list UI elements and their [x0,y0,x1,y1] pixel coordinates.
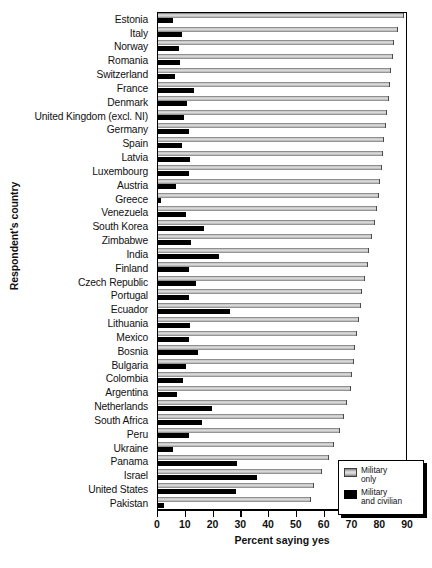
bar-military-and-civilian [158,475,257,480]
bar-row [158,234,406,248]
x-axis-tick [268,511,269,517]
y-axis-tick-label: Italy [130,28,148,39]
bar-row [158,40,406,54]
bar-row [158,151,406,165]
bar-row [158,345,406,359]
bar-military-only [158,469,322,474]
bar-military-only [158,40,394,45]
y-axis-tick-label: Czech Republic [78,277,148,288]
legend: Militaryonly Militaryand civilian [338,460,424,515]
y-axis-tick-label: France [117,83,148,94]
y-axis-tick-label: Bulgaria [111,360,148,371]
x-axis-tick-value: 30 [226,518,254,530]
bar-military-only [158,414,344,419]
y-axis-tick-label: Spain [122,138,148,149]
y-axis-tick-label: Denmark [107,97,148,108]
bar-military-and-civilian [158,198,161,203]
y-axis-tick-label: Panama [111,456,148,467]
bar-military-and-civilian [158,350,198,355]
bar-military-only [158,179,380,184]
y-axis-tick-label: Romania [108,55,148,66]
x-axis-tick [296,511,297,517]
y-axis-tick-label: Estonia [115,14,148,25]
bar-military-only [158,13,404,18]
y-axis-tick-label: Luxembourg [92,166,148,177]
bar-row [158,262,406,276]
bar-row [158,165,406,179]
legend-swatch-black [344,490,357,499]
y-axis-tick-label: Israel [124,470,148,481]
y-axis-tick-label: Colombia [106,373,148,384]
y-axis-tick-label: Greece [115,194,148,205]
legend-swatch-gray [344,468,357,477]
bar-military-and-civilian [158,171,189,176]
x-axis-tick-value: 10 [171,518,199,530]
bar-row [158,428,406,442]
x-axis-tick-value: 60 [310,518,338,530]
bar-military-only [158,165,382,170]
bar-military-and-civilian [158,378,183,383]
bar-row [158,68,406,82]
bar-row [158,123,406,137]
bar-military-and-civilian [158,32,182,37]
bar-row [158,13,406,27]
bar-military-and-civilian [158,433,189,438]
bar-military-only [158,303,361,308]
bar-row [158,220,406,234]
bar-military-and-civilian [158,309,230,314]
y-axis-tick-label: South Africa [94,415,148,426]
bar-military-only [158,428,340,433]
bar-military-and-civilian [158,323,190,328]
y-axis-tick-label: Peru [127,429,148,440]
bar-row [158,193,406,207]
legend-label-military-and-civilian: Militaryand civilian [361,488,423,507]
y-axis-tick-label: Austria [117,180,148,191]
bar-military-and-civilian [158,143,182,148]
y-axis-tick-label: Latvia [121,152,148,163]
y-axis-tick-label: Norway [114,41,148,52]
bar-row [158,248,406,262]
bar-rows [158,12,406,510]
y-axis-tick-label: Ukraine [114,443,148,454]
bar-military-and-civilian [158,129,189,134]
bar-chart: Respondent's country EstoniaItalyNorwayR… [0,0,432,568]
x-axis-tick-value: 0 [143,518,171,530]
bar-military-and-civilian [158,281,196,286]
bar-military-only [158,206,377,211]
y-axis-tick-label: Finland [115,263,148,274]
bar-military-only [158,137,384,142]
bar-military-only [158,123,386,128]
y-axis-tick-label: Argentina [105,387,148,398]
x-axis-tick-value: 40 [254,518,282,530]
plot-area [157,12,407,510]
bar-military-only [158,289,362,294]
y-axis-tick-label: Germany [107,124,148,135]
bar-military-only [158,442,334,447]
bar-row [158,96,406,110]
bar-military-and-civilian [158,212,186,217]
bar-military-and-civilian [158,337,189,342]
bar-row [158,276,406,290]
y-axis-tick-label: United Kingdom (excl. NI) [34,111,148,122]
bar-row [158,82,406,96]
bar-row [158,54,406,68]
x-axis-tick-value: 80 [365,518,393,530]
y-axis-tick-label: Pakistan [110,498,148,509]
y-axis-tick-labels: EstoniaItalyNorwayRomaniaSwitzerlandFran… [0,12,153,510]
bar-military-only [158,345,355,350]
bar-military-only [158,455,329,460]
bar-row [158,179,406,193]
y-axis-tick-label: Zimbabwe [102,235,148,246]
bar-military-only [158,400,347,405]
bar-row [158,289,406,303]
bar-military-only [158,234,372,239]
bar-row [158,27,406,41]
y-axis-tick-label: United States [88,484,148,495]
x-axis-tick-value: 50 [282,518,310,530]
bar-military-and-civilian [158,157,190,162]
bar-military-and-civilian [158,74,175,79]
y-axis-tick-label: Venezuela [101,207,148,218]
bar-military-only [158,248,369,253]
bar-military-and-civilian [158,392,177,397]
bar-military-and-civilian [158,101,187,106]
